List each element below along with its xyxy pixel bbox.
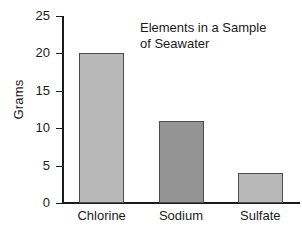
x-axis-label-sulfate: Sulfate — [210, 208, 302, 223]
bar-sulfate — [238, 173, 283, 203]
y-tick-label: 15 — [16, 84, 50, 97]
chart-title-line-2: of Seawater — [140, 36, 302, 52]
chart-title: Elements in a Sample of Seawater — [140, 20, 302, 52]
y-tick-mark — [56, 203, 63, 204]
y-tick-label: 20 — [16, 46, 50, 59]
y-tick-label: 10 — [16, 121, 50, 134]
y-tick-label: 25 — [16, 9, 50, 22]
y-tick-label: 0 — [16, 196, 50, 209]
y-tick-label: 5 — [16, 159, 50, 172]
bar-sodium — [159, 121, 204, 203]
bar-chart: Grams 0510152025 ChlorineSodiumSulfate E… — [0, 0, 302, 233]
chart-title-line-1: Elements in a Sample — [140, 20, 302, 36]
bar-chlorine — [79, 53, 124, 203]
